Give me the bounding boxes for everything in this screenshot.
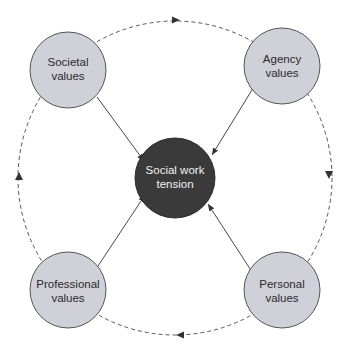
edge-personal-to-center — [208, 204, 254, 275]
edge-agency-to-center — [212, 85, 255, 155]
node-personal-label-line2: values — [265, 292, 298, 304]
node-societal-label-line2: values — [51, 70, 84, 82]
node-professional: Professional values — [30, 252, 106, 328]
node-personal-label-line1: Personal — [259, 278, 304, 290]
cycle-arrow-top-icon — [172, 17, 180, 24]
node-societal-label-line1: Societal — [48, 56, 89, 68]
node-societal: Societal values — [30, 32, 106, 108]
center-label-line1: Social work — [146, 164, 205, 176]
node-agency-label-line2: values — [265, 67, 298, 79]
node-agency: Agency values — [244, 28, 320, 104]
cycle-arrow-bottom-icon — [176, 332, 184, 339]
center-label-line2: tension — [156, 178, 193, 190]
edge-professional-to-center — [98, 195, 145, 266]
node-agency-label-line1: Agency — [263, 53, 302, 65]
node-professional-label-line1: Professional — [36, 278, 99, 290]
edge-societal-to-center — [97, 97, 144, 161]
values-tension-diagram: Societal values Agency values Profession… — [0, 0, 348, 355]
node-professional-label-line2: values — [51, 292, 84, 304]
cycle-arrow-left-icon — [15, 172, 23, 180]
node-personal: Personal values — [244, 252, 320, 328]
node-social-work-tension: Social work tension — [135, 138, 215, 218]
